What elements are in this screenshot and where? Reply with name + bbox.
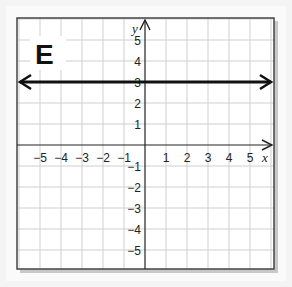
y-tick-label: 2 [134, 97, 141, 111]
panel-label: E [35, 39, 54, 70]
x-tick-label: −2 [96, 151, 110, 165]
y-tick-label: 4 [134, 55, 141, 69]
y-tick-label: −4 [127, 223, 141, 237]
x-tick-label: −3 [75, 151, 89, 165]
y-tick-label: 5 [134, 34, 141, 48]
y-tick-label: −5 [127, 244, 141, 258]
y-tick-label: −2 [127, 181, 141, 195]
coordinate-plane: xy−5−4−3−2−11234554321−1−2−3−4−5E [0, 0, 292, 287]
x-tick-label: −5 [33, 151, 47, 165]
y-tick-label: −1 [127, 160, 141, 174]
y-tick-label: 1 [134, 118, 141, 132]
x-tick-label: 4 [226, 151, 233, 165]
x-tick-label: 5 [247, 151, 254, 165]
x-tick-label: 2 [184, 151, 191, 165]
x-tick-label: −4 [54, 151, 68, 165]
x-tick-label: 1 [163, 151, 170, 165]
y-tick-label: −3 [127, 202, 141, 216]
x-tick-label: 3 [205, 151, 212, 165]
x-axis-label: x [261, 150, 268, 165]
